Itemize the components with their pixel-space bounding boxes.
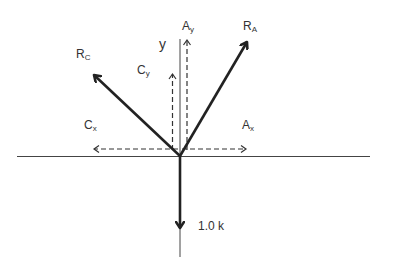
ra-force-arrow [180, 42, 247, 156]
load-label: 1.0 k [198, 220, 224, 232]
ay-label: Ay [182, 20, 194, 34]
ax-label: Ax [242, 119, 254, 133]
cy-label: Cy [137, 64, 150, 78]
rc-force-arrow [94, 75, 180, 156]
ra-label: RA [243, 20, 257, 34]
rc-label: RC [76, 48, 90, 62]
y-axis-label: y [159, 37, 166, 51]
cx-label: Cx [84, 119, 97, 133]
